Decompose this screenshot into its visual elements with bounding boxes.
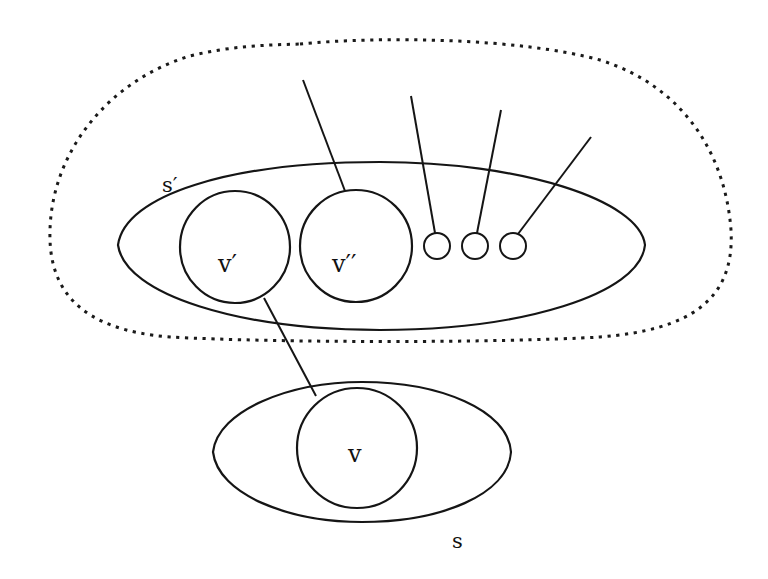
edge-small-3-external <box>518 137 591 234</box>
set-s-ellipse <box>213 382 511 522</box>
outer-dotted-boundary <box>50 40 731 342</box>
label-v-prime: v′ <box>217 250 237 278</box>
label-v-double-prime: v′′ <box>331 250 356 278</box>
node-v-double-prime-circle <box>300 190 412 302</box>
set-s-prime-ellipse <box>118 162 645 330</box>
edge-v-prime-to-v <box>264 298 316 396</box>
edge-v-double-prime-external <box>303 80 345 191</box>
node-v-prime-circle <box>180 191 290 303</box>
label-s: s <box>452 529 463 553</box>
small-node-2 <box>462 233 488 259</box>
set-diagram: s′ v′ v′′ v s <box>0 0 768 579</box>
small-node-1 <box>424 233 450 259</box>
label-s-prime: s′ <box>162 173 178 197</box>
label-v: v <box>347 440 362 468</box>
small-node-3 <box>500 233 526 259</box>
